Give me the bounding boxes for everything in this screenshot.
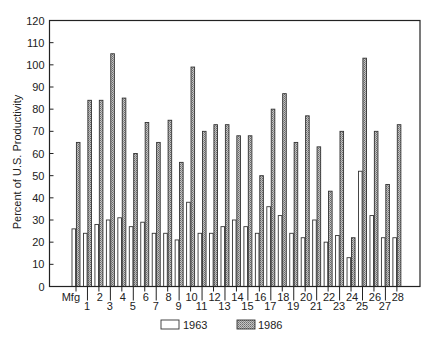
legend-swatch bbox=[237, 320, 255, 329]
y-tick-label: 60 bbox=[32, 148, 44, 160]
x-tick-label: 15 bbox=[241, 300, 253, 312]
bar-1986-Mfg bbox=[76, 142, 80, 286]
legend-label: 1963 bbox=[183, 319, 207, 331]
y-tick-label: 50 bbox=[32, 170, 44, 182]
bar-1963-8 bbox=[164, 233, 168, 286]
bar-1986-10 bbox=[191, 67, 195, 286]
x-tick-label: 9 bbox=[176, 300, 182, 312]
bar-1963-25 bbox=[359, 171, 363, 286]
y-tick-label: 0 bbox=[38, 281, 44, 293]
bar-1963-11 bbox=[198, 233, 202, 286]
y-tick-label: 20 bbox=[32, 236, 44, 248]
bar-1986-28 bbox=[397, 125, 401, 287]
bar-1986-26 bbox=[374, 131, 378, 286]
bar-1963-4 bbox=[118, 218, 122, 287]
legend-item-1963: 1963 bbox=[161, 319, 207, 331]
bar-1986-3 bbox=[111, 54, 115, 287]
y-axis-title: Percent of U.S. Productivity bbox=[11, 94, 23, 229]
x-tick-label: 17 bbox=[264, 300, 276, 312]
bar-1986-13 bbox=[225, 125, 229, 287]
bar-1963-7 bbox=[152, 233, 156, 286]
bar-1963-6 bbox=[141, 222, 145, 286]
bars bbox=[72, 54, 401, 287]
bar-1986-22 bbox=[329, 191, 333, 286]
bar-1963-22 bbox=[324, 242, 328, 286]
y-tick-label: 40 bbox=[32, 192, 44, 204]
bar-1963-1 bbox=[83, 233, 87, 286]
x-tick-label: 28 bbox=[392, 291, 404, 303]
bar-1963-28 bbox=[393, 238, 397, 287]
x-tick-label: 23 bbox=[333, 300, 345, 312]
bar-1986-24 bbox=[351, 238, 355, 287]
bar-1986-21 bbox=[317, 147, 321, 287]
bar-1986-15 bbox=[248, 136, 252, 287]
bar-1963-18 bbox=[278, 216, 282, 287]
legend-item-1986: 1986 bbox=[237, 319, 282, 331]
bar-1963-21 bbox=[313, 220, 317, 287]
x-tick-label: 5 bbox=[130, 300, 136, 312]
bar-1963-5 bbox=[129, 227, 133, 287]
bar-1986-8 bbox=[168, 120, 172, 286]
bar-1986-27 bbox=[386, 185, 390, 287]
bar-1986-25 bbox=[363, 58, 367, 286]
x-tick-label: 4 bbox=[120, 291, 126, 303]
bar-1963-16 bbox=[255, 233, 259, 286]
y-tick-label: 10 bbox=[32, 258, 44, 270]
y-tick-label: 110 bbox=[27, 37, 45, 49]
bar-1986-20 bbox=[306, 116, 310, 287]
x-tick-label: 27 bbox=[379, 300, 391, 312]
bar-1963-27 bbox=[381, 238, 385, 287]
bar-1963-3 bbox=[106, 220, 110, 287]
x-tick-label: 21 bbox=[310, 300, 322, 312]
bar-1986-17 bbox=[271, 109, 275, 286]
y-tick-label: 90 bbox=[32, 81, 44, 93]
bar-1963-17 bbox=[267, 207, 271, 287]
bar-1963-23 bbox=[336, 236, 340, 287]
bar-chart: Percent of U.S. Productivity 01020304050… bbox=[0, 0, 435, 346]
bar-1963-10 bbox=[187, 202, 191, 286]
bar-1986-9 bbox=[180, 162, 184, 286]
bar-1986-12 bbox=[214, 125, 218, 287]
bar-1963-13 bbox=[221, 227, 225, 287]
bar-1963-19 bbox=[290, 233, 294, 286]
bar-1986-4 bbox=[122, 98, 126, 286]
y-tick-label: 70 bbox=[32, 125, 44, 137]
x-tick-label: 13 bbox=[218, 300, 230, 312]
legend-label: 1986 bbox=[258, 319, 282, 331]
x-tick-label: Mfg bbox=[62, 291, 80, 303]
bar-1986-14 bbox=[237, 136, 241, 287]
bar-1986-18 bbox=[283, 94, 287, 287]
bar-1986-7 bbox=[157, 142, 161, 286]
bar-1986-16 bbox=[260, 176, 264, 287]
y-axis-label: Percent of U.S. Productivity bbox=[11, 94, 23, 229]
bar-1986-23 bbox=[340, 131, 344, 286]
bar-1963-15 bbox=[244, 227, 248, 287]
y-tick-label: 100 bbox=[26, 59, 44, 71]
bar-1986-19 bbox=[294, 142, 298, 286]
x-tick-label: 6 bbox=[143, 291, 149, 303]
bar-1986-5 bbox=[134, 154, 138, 287]
bar-1963-9 bbox=[175, 240, 179, 287]
y-tick-label: 120 bbox=[26, 15, 44, 27]
bar-1963-14 bbox=[232, 220, 236, 287]
x-tick-label: 7 bbox=[153, 300, 159, 312]
x-tick-label: 3 bbox=[107, 300, 113, 312]
legend: 19631986 bbox=[161, 319, 282, 331]
x-tick-label: 19 bbox=[287, 300, 299, 312]
bar-1963-26 bbox=[370, 216, 374, 287]
y-tick-label: 30 bbox=[32, 214, 44, 226]
x-tick-label: 8 bbox=[166, 291, 172, 303]
legend-swatch bbox=[161, 320, 179, 329]
x-tick-label: 2 bbox=[97, 291, 103, 303]
bar-1986-2 bbox=[99, 100, 103, 286]
bar-1963-2 bbox=[95, 224, 99, 286]
bar-1986-1 bbox=[88, 100, 92, 286]
x-axis: Mfg1234567891011121314151617181920212223… bbox=[62, 287, 404, 312]
bar-1963-20 bbox=[301, 238, 305, 287]
bar-1963-Mfg bbox=[72, 229, 76, 287]
x-tick-label: 25 bbox=[356, 300, 368, 312]
bar-1963-24 bbox=[347, 258, 351, 287]
x-tick-label: 1 bbox=[84, 300, 90, 312]
y-tick-label: 80 bbox=[32, 103, 44, 115]
bar-1986-11 bbox=[202, 131, 206, 286]
